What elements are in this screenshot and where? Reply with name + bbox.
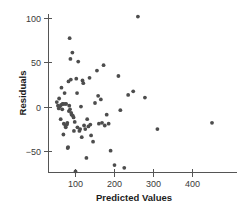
y-tick-label-50: 50 [31,58,41,68]
data-point [88,123,92,127]
data-point [63,91,67,95]
data-point [65,121,69,125]
data-point [55,100,59,104]
data-point [68,36,72,40]
y-tick-label-neg50: −50 [26,147,41,157]
data-point [60,107,64,111]
data-point [122,166,126,170]
data-point [80,135,84,139]
data-point [136,15,140,19]
scatter-plot-figure: 100 50 0 −50 100 200 300 400 Predicted V… [0,0,241,207]
plot-canvas: 100 50 0 −50 100 200 300 400 Predicted V… [0,0,241,207]
data-point [57,97,61,101]
data-point [118,108,122,112]
data-point [81,81,85,85]
data-point [75,91,79,95]
data-point [100,121,104,125]
data-point [107,122,111,126]
data-point [66,145,70,149]
data-point [83,127,87,131]
data-point [96,94,100,98]
data-point [72,116,76,120]
data-point [102,63,106,67]
data-point [99,98,103,102]
data-point [210,121,214,125]
data-point [59,117,63,121]
y-axis-title: Residuals [17,71,28,116]
x-tick-label-200: 200 [107,179,122,189]
data-point [67,104,71,108]
data-point [105,113,109,117]
x-tick-label-300: 300 [146,179,161,189]
data-point [62,133,66,137]
data-point [95,69,99,73]
data-point [76,60,80,64]
data-point [74,77,78,81]
data-point [85,117,89,121]
data-point [69,78,73,82]
data-point [60,86,64,90]
y-tick-label-100: 100 [26,14,41,24]
data-point [73,120,77,124]
data-point [156,127,160,131]
data-point [113,163,117,167]
data-point [88,76,92,80]
data-point [68,107,72,111]
data-point [72,129,76,133]
data-point [69,57,73,61]
data-point [91,140,95,144]
data-point [131,89,135,93]
data-point [70,51,74,55]
data-point [93,101,97,105]
data-point [78,127,82,131]
x-tick-label-400: 400 [185,179,200,189]
data-point [74,170,78,174]
x-axis-title: Predicted Values [96,192,172,203]
data-points-layer [55,15,214,174]
data-point [85,156,89,160]
data-point [103,124,107,128]
x-tick-label-100: 100 [68,179,83,189]
data-point [126,93,130,97]
data-point [79,105,83,109]
data-point [143,96,147,100]
data-point [109,149,113,153]
y-tick-label-0: 0 [36,103,41,113]
data-point [89,134,93,138]
data-point [82,124,86,128]
data-point [117,74,121,78]
